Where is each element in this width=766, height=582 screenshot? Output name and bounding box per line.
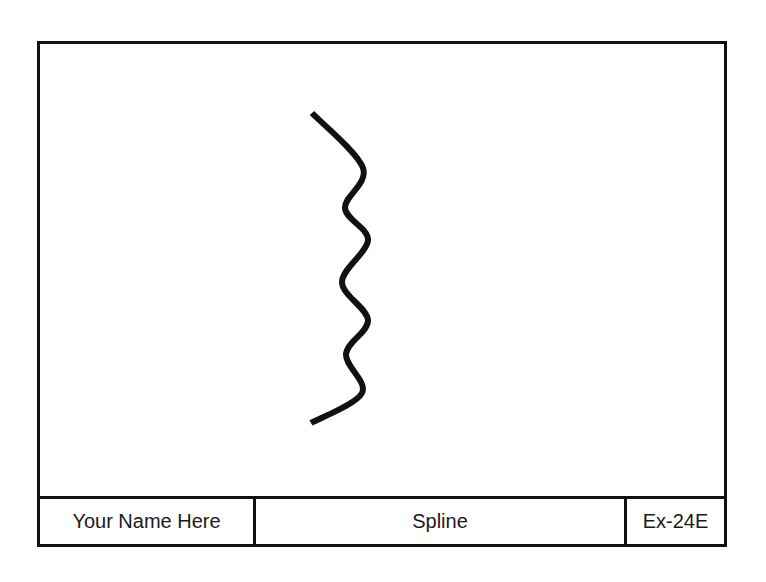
spline-canvas <box>0 0 766 582</box>
spline-curve <box>311 113 368 423</box>
